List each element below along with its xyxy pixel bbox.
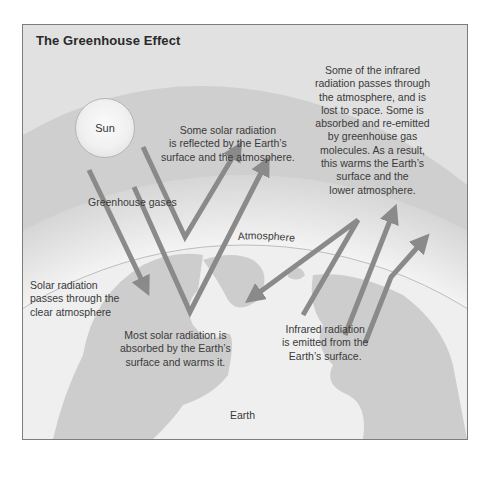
absorbed-radiation-label: Most solar radiation is absorbed by the … [120,329,231,369]
greenhouse-gases-label: Greenhouse gases [88,196,177,209]
greenhouse-diagram: Atmosphere The Greenhouse Effect Sun Som… [22,24,468,440]
solar-passes-label: Solar radiation passes through the clear… [30,279,119,319]
diagram-title: The Greenhouse Effect [36,33,180,48]
sun: Sun [75,98,135,158]
reflected-radiation-label: Some solar radiation is reflected by the… [161,124,295,164]
earth-label: Earth [230,409,255,422]
infrared-escape-label: Some of the infrared radiation passes th… [315,64,430,197]
sun-label: Sun [95,122,115,134]
infrared-emitted-label: Infrared radiation is emitted from the E… [282,323,368,363]
